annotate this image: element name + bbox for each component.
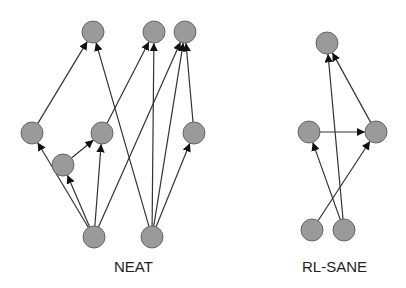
node-l — [298, 121, 320, 143]
node-t3 — [174, 21, 196, 43]
edge-b1-s — [67, 175, 89, 227]
node-s — [52, 154, 74, 176]
edge-b1-mm — [95, 144, 101, 226]
rl-sane-label: RL-SANE — [302, 258, 367, 275]
edge-s-mm — [72, 140, 94, 158]
edge-r-t — [332, 53, 370, 123]
node-ml — [21, 122, 43, 144]
edge-mm-t2 — [107, 42, 149, 123]
node-mr — [183, 122, 205, 144]
edge-b2-mr — [156, 143, 190, 227]
node-t — [316, 32, 338, 54]
node-b2 — [141, 226, 163, 248]
neat-label: NEAT — [114, 258, 153, 275]
node-bl — [301, 219, 323, 241]
node-t1 — [82, 21, 104, 43]
node-t2 — [143, 21, 165, 43]
node-br — [333, 219, 355, 241]
edge-ml-t1 — [38, 41, 88, 123]
edge-mr-t3 — [186, 43, 193, 122]
edge-b2-t2 — [152, 43, 154, 226]
edge-bl-r — [318, 141, 370, 221]
network-diagrams — [0, 0, 406, 288]
node-b1 — [83, 226, 105, 248]
node-r — [365, 121, 387, 143]
node-mm — [91, 122, 113, 144]
